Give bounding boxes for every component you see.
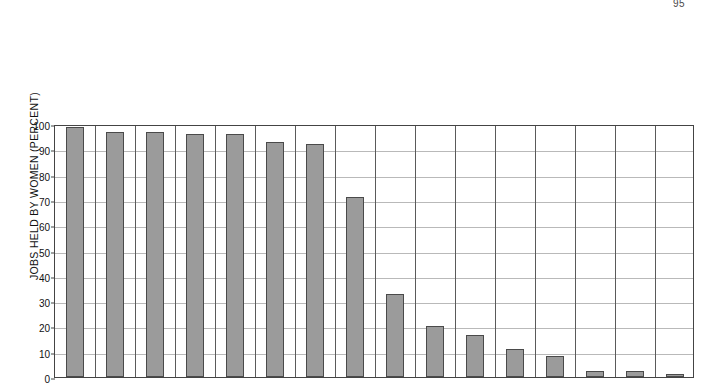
bar	[266, 142, 285, 377]
y-tick-label: 90	[39, 146, 50, 157]
y-tick-label: 0	[44, 374, 50, 385]
bar-chart-figure: 95 JOBS HELD BY WOMEN (PERCENT) SECRETAR…	[0, 0, 709, 391]
bar	[66, 127, 85, 377]
y-tick-label: 10	[39, 348, 50, 359]
y-tick-label: 80	[39, 171, 50, 182]
bar	[466, 335, 485, 377]
bar	[506, 349, 525, 377]
bar	[346, 197, 365, 377]
bar	[226, 134, 245, 377]
bar	[186, 134, 205, 377]
y-tick-label: 70	[39, 196, 50, 207]
category-labels: SECRETARIESCLEANERS AND SERVANTSPRACTICA…	[0, 0, 709, 125]
bar	[586, 371, 605, 377]
y-tick-mark	[51, 379, 55, 380]
bars-group	[55, 126, 693, 377]
y-tick-label: 20	[39, 323, 50, 334]
y-tick-label: 30	[39, 298, 50, 309]
y-tick-label: 60	[39, 222, 50, 233]
y-tick-label: 40	[39, 272, 50, 283]
bar	[106, 132, 125, 377]
bar	[546, 356, 565, 378]
bar	[146, 132, 165, 377]
bar	[426, 326, 445, 377]
y-tick-label: 50	[39, 247, 50, 258]
bar	[666, 374, 685, 377]
y-tick-label: 100	[33, 121, 50, 132]
plot-area: 0102030405060708090100	[54, 125, 694, 378]
bar	[386, 294, 405, 377]
bar	[626, 371, 645, 377]
bar	[306, 144, 325, 377]
